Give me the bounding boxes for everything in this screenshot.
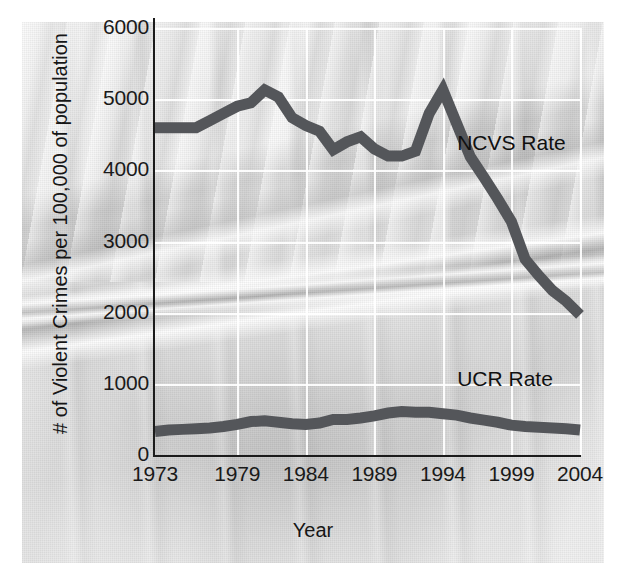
x-axis-line xyxy=(153,455,581,457)
x-tick-label: 1994 xyxy=(408,462,478,486)
y-axis-line xyxy=(153,18,155,455)
ncvs-rate-line xyxy=(155,90,580,315)
ucr-rate-label: UCR Rate xyxy=(457,367,553,391)
y-tick-label: 5000 xyxy=(69,86,149,110)
y-axis-title: # of Violent Crimes per 100,000 of popul… xyxy=(49,24,72,444)
x-tick-label: 1984 xyxy=(271,462,341,486)
y-tick-label: 6000 xyxy=(69,15,149,39)
gridline-vertical xyxy=(580,28,582,455)
y-tick-label: 3000 xyxy=(69,229,149,253)
x-tick-label: 1999 xyxy=(476,462,546,486)
x-tick-label: 2004 xyxy=(545,462,615,486)
x-tick-label: 1973 xyxy=(120,462,190,486)
ucr-rate-line xyxy=(155,412,580,432)
y-tick-label: 2000 xyxy=(69,300,149,324)
y-tick-label: 1000 xyxy=(69,371,149,395)
violent-crime-rate-chart: 0100020003000400050006000 19731979198419… xyxy=(0,0,626,583)
y-axis-tick-labels: 0100020003000400050006000 xyxy=(63,0,149,583)
y-tick-label: 4000 xyxy=(69,157,149,181)
x-tick-label: 1989 xyxy=(339,462,409,486)
ncvs-rate-label: NCVS Rate xyxy=(457,131,566,155)
x-axis-title: Year xyxy=(0,519,626,542)
x-tick-label: 1979 xyxy=(202,462,272,486)
